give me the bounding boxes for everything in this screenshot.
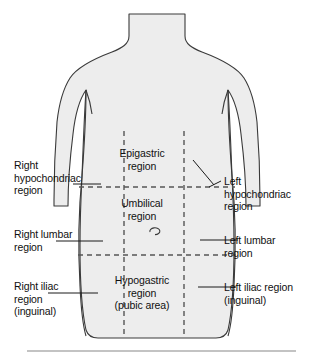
callout-label-right-hypochondriac: Right hypochondriac region	[14, 159, 106, 197]
region-label-epigastric: Epigastric region	[102, 147, 182, 172]
callout-label-right-lumbar: Right lumbar region	[14, 228, 106, 253]
callout-label-left-lumbar: Left lumbar region	[224, 234, 314, 259]
callout-label-left-iliac: Left iliac region (inguinal)	[224, 281, 314, 306]
callout-label-left-hypochondriac: Left hypochondriac region	[224, 175, 314, 213]
callout-label-right-iliac: Right iliac region (inguinal)	[14, 280, 96, 318]
region-label-hypogastric: Hypogastric region (pubic area)	[98, 274, 186, 312]
region-label-umbilical: Umbilical region	[102, 197, 182, 222]
